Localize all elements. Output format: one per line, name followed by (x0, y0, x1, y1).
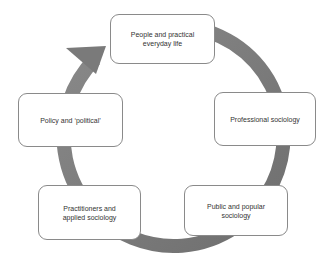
node-public: Public and popular sociology (184, 185, 288, 236)
node-people: People and practical everyday life (110, 14, 215, 64)
node-label: Professional sociology (230, 115, 300, 124)
node-professional: Professional sociology (214, 92, 316, 146)
node-label: Public and popular sociology (205, 202, 267, 220)
node-policy: Policy and ‘political’ (18, 93, 123, 147)
node-label: People and practical everyday life (117, 30, 208, 48)
node-label: Practitioners and applied sociology (60, 204, 120, 222)
node-label: Policy and ‘political’ (40, 116, 101, 125)
node-practitioners: Practitioners and applied sociology (38, 185, 141, 240)
